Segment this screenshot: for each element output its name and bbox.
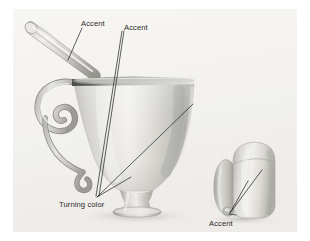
label-accent-rim: Accent: [124, 23, 149, 32]
illustration-canvas: Accent Accent Turning color Accent: [0, 0, 310, 241]
label-accent-vessel: Accent: [209, 219, 234, 228]
label-turning-color: Turning color: [59, 200, 105, 209]
illustration-figure: Accent Accent Turning color Accent: [0, 0, 310, 241]
label-accent-spoon: Accent: [81, 19, 106, 28]
